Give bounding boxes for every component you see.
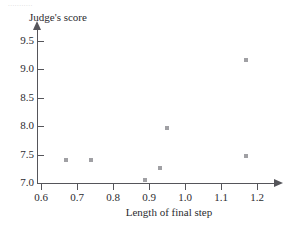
y-tick-label: 9.0: [4, 63, 34, 74]
y-tick-label: 7.5: [4, 149, 34, 160]
x-tick-label: 0.6: [26, 192, 56, 203]
x-tick-label: 0.7: [62, 192, 92, 203]
data-point: [158, 166, 162, 170]
y-tick-label: 8.5: [4, 92, 34, 103]
scatter-plot-figure: ........... Judge's score 7.07.58.08.59.…: [0, 0, 302, 225]
y-tick-mark: [38, 98, 44, 99]
x-tick-mark: [113, 184, 114, 190]
x-tick-label: 0.9: [134, 192, 164, 203]
y-tick-mark: [38, 126, 44, 127]
x-tick-label: 0.8: [98, 192, 128, 203]
y-tick-mark: [38, 155, 44, 156]
page-edge-artifact: ...........: [8, 1, 54, 8]
data-point: [89, 158, 93, 162]
data-point: [244, 58, 248, 62]
data-point: [165, 126, 169, 130]
x-axis-arrow-icon: [274, 179, 283, 187]
data-point: [244, 154, 248, 158]
x-axis-line: [37, 183, 275, 184]
x-tick-label: 1.2: [242, 192, 272, 203]
y-tick-mark: [38, 69, 44, 70]
y-axis-line: [37, 28, 38, 184]
y-tick-label: 9.5: [4, 35, 34, 46]
x-tick-mark: [77, 184, 78, 190]
x-tick-mark: [257, 184, 258, 190]
y-tick-mark: [38, 41, 44, 42]
data-point: [64, 158, 68, 162]
x-axis-title: Length of final step: [0, 206, 302, 218]
y-tick-label: 8.0: [4, 120, 34, 131]
y-tick-label: 7.0: [4, 177, 34, 188]
y-axis-arrow-icon: [33, 21, 41, 30]
x-tick-mark: [41, 184, 42, 190]
x-tick-mark: [185, 184, 186, 190]
x-tick-mark: [221, 184, 222, 190]
x-tick-label: 1.1: [206, 192, 236, 203]
x-tick-label: 1.0: [170, 192, 200, 203]
data-point: [143, 178, 147, 182]
x-tick-mark: [149, 184, 150, 190]
